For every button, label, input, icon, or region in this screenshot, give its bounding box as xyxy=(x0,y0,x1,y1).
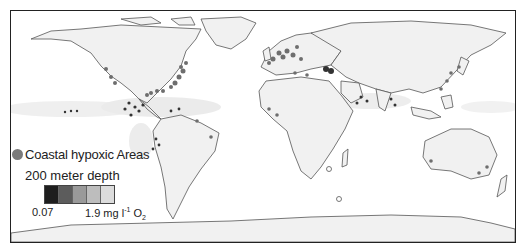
scale-swatch-3 xyxy=(73,186,87,203)
scale-unit-o: O xyxy=(133,207,142,219)
scale-swatch-1 xyxy=(45,186,59,203)
scale-max-label: 1.9 mg l-1 O2 xyxy=(85,206,146,221)
scale-max-value: 1.9 xyxy=(85,207,100,219)
scale-swatch-4 xyxy=(87,186,101,203)
island-outline xyxy=(337,197,342,202)
gray-circle-icon xyxy=(12,149,23,160)
scale-min-label: 0.07 xyxy=(32,206,53,218)
map-frame: Coastal hypoxic Areas 200 meter depth 0.… xyxy=(10,10,516,243)
legend-hypoxic: Coastal hypoxic Areas xyxy=(12,147,149,162)
legend-hypoxic-label: Coastal hypoxic Areas xyxy=(25,147,149,162)
oxygen-color-scale xyxy=(44,185,115,204)
scale-swatch-2 xyxy=(59,186,73,203)
scale-unit: mg l xyxy=(103,207,124,219)
scale-unit-sub: 2 xyxy=(142,214,146,221)
scale-unit-sup: -1 xyxy=(124,206,130,213)
legend-depth-title: 200 meter depth xyxy=(25,168,120,183)
island-outline xyxy=(327,167,332,172)
scale-swatch-5 xyxy=(101,186,114,203)
